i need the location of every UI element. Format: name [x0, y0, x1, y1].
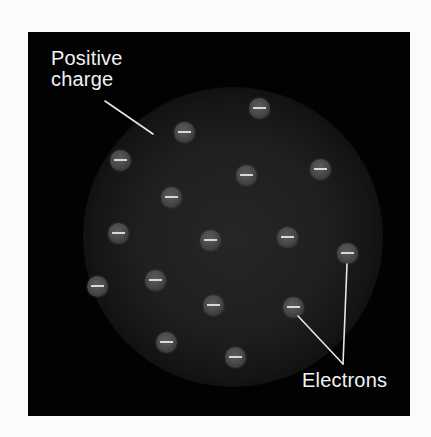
minus-sign-icon: [204, 239, 217, 241]
minus-sign-icon: [341, 252, 354, 254]
electron: [203, 295, 224, 316]
minus-sign-icon: [229, 356, 242, 358]
electrons-label: Electrons: [302, 370, 387, 391]
positive-charge-label: Positive charge: [51, 48, 123, 90]
electron: [156, 332, 177, 353]
minus-sign-icon: [165, 196, 178, 198]
electron: [236, 165, 257, 186]
electron: [249, 98, 270, 119]
minus-sign-icon: [240, 174, 253, 176]
electron: [225, 347, 246, 368]
electron: [110, 150, 131, 171]
minus-sign-icon: [112, 232, 125, 234]
electron: [200, 230, 221, 251]
electron: [337, 243, 358, 264]
electron: [277, 227, 298, 248]
electron: [283, 297, 304, 318]
electron: [161, 187, 182, 208]
positive-charge-label-line2: charge: [51, 69, 123, 90]
minus-sign-icon: [114, 159, 127, 161]
electron: [108, 223, 129, 244]
minus-sign-icon: [178, 131, 191, 133]
electron: [87, 276, 108, 297]
minus-sign-icon: [314, 168, 327, 170]
electron: [174, 122, 195, 143]
minus-sign-icon: [287, 306, 300, 308]
minus-sign-icon: [91, 285, 104, 287]
electron: [310, 159, 331, 180]
electron: [145, 270, 166, 291]
minus-sign-icon: [207, 304, 220, 306]
minus-sign-icon: [160, 341, 173, 343]
minus-sign-icon: [253, 107, 266, 109]
minus-sign-icon: [149, 279, 162, 281]
minus-sign-icon: [281, 236, 294, 238]
positive-charge-label-line1: Positive: [51, 48, 123, 69]
